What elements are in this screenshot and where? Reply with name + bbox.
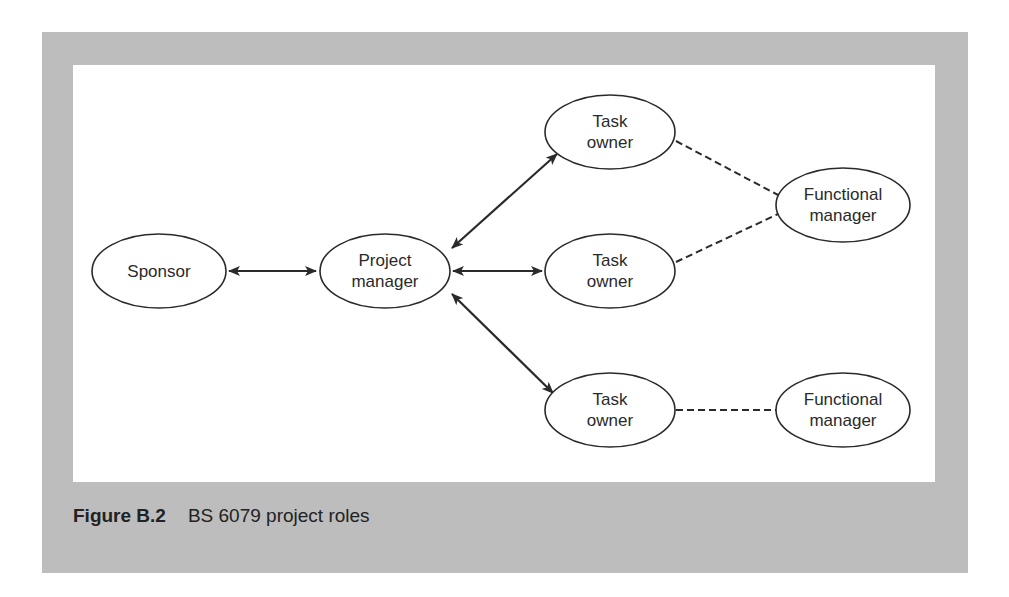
node-project-manager-line2: manager — [351, 272, 418, 291]
node-task-owner-1: Task owner — [545, 95, 675, 169]
edge-task-owner-2-functional-manager-1 — [676, 214, 778, 262]
node-functional-manager-2-line1: Functional — [804, 390, 882, 409]
node-functional-manager-1-line2: manager — [809, 206, 876, 225]
node-task-owner-2-line2: owner — [587, 272, 634, 291]
node-task-owner-3: Task owner — [545, 373, 675, 447]
node-sponsor-label: Sponsor — [127, 262, 191, 281]
diagram-canvas: Sponsor Project manager Task owner Task … — [73, 65, 935, 482]
edge-project-manager-task-owner-1 — [452, 154, 557, 248]
figure-frame: Sponsor Project manager Task owner Task … — [42, 32, 968, 573]
node-functional-manager-2: Functional manager — [776, 373, 910, 447]
edge-task-owner-1-functional-manager-1 — [676, 141, 778, 195]
node-functional-manager-1-line1: Functional — [804, 185, 882, 204]
figure-number: Figure B.2 — [73, 505, 166, 526]
node-functional-manager-1: Functional manager — [776, 168, 910, 242]
node-task-owner-2: Task owner — [545, 234, 675, 308]
node-task-owner-1-line1: Task — [593, 112, 628, 131]
node-task-owner-2-line1: Task — [593, 251, 628, 270]
node-project-manager: Project manager — [320, 234, 450, 308]
roles-diagram: Sponsor Project manager Task owner Task … — [73, 65, 935, 482]
node-task-owner-3-line1: Task — [593, 390, 628, 409]
figure-title: BS 6079 project roles — [188, 505, 370, 526]
node-sponsor: Sponsor — [92, 234, 226, 308]
node-project-manager-line1: Project — [359, 251, 412, 270]
edge-project-manager-task-owner-3 — [452, 294, 553, 393]
figure-caption: Figure B.2BS 6079 project roles — [73, 505, 370, 527]
node-functional-manager-2-line2: manager — [809, 411, 876, 430]
node-task-owner-1-line2: owner — [587, 133, 634, 152]
node-task-owner-3-line2: owner — [587, 411, 634, 430]
